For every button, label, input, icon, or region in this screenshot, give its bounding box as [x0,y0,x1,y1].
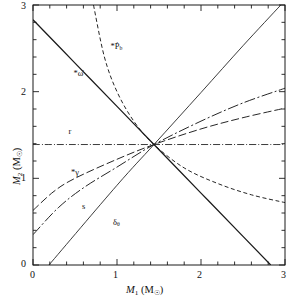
curve-delta-theta [49,5,281,265]
omegadot-label-text: *ω̇ [74,68,84,78]
s-label: s [82,202,85,211]
y-axis-label-main: M [11,176,22,185]
x-tick-label-1: 1 [113,270,118,280]
gamma-label-text: *γ [71,167,79,177]
curve-gamma [33,108,285,210]
y-axis-label-sub: 2 [16,173,24,177]
x-axis-unit-open: (M [141,284,154,295]
x-axis-label-sub: 1 [135,289,139,297]
curve-s [33,88,285,234]
deltatheta-label-sub: θ [117,222,120,228]
y-axis-unit-close: ) [11,148,22,152]
y-axis-unit-open: (M [11,157,22,170]
gamma-label: *γ [71,168,79,177]
pbdot-label-sub: b [119,45,122,51]
x-tick-label-0: 0 [30,270,35,280]
r-label-text: r [68,126,71,136]
x-tick-label-2: 2 [197,270,202,280]
r-label: r [68,127,71,136]
y-axis-unit-sub: ☉ [16,151,24,157]
x-tick-label-3: 3 [281,270,286,280]
x-axis-label-main: M [126,284,135,295]
deltatheta-label: δθ [113,218,120,228]
mass-mass-plot [0,0,299,304]
y-tick-label-0: 0 [21,259,26,269]
s-label-text: s [82,201,85,211]
y-tick-label-2: 2 [21,87,26,97]
x-axis-label: M1 (M☉) [126,285,163,297]
x-axis-unit-close: ) [160,284,164,295]
omegadot-label: *ω̇ [74,69,84,78]
y-tick-label-3: 3 [21,1,26,11]
pbdot-label: *Ṗb [110,42,122,52]
curve-Pb-dot [93,5,285,203]
y-axis-label: M2 (M☉) [12,148,24,185]
